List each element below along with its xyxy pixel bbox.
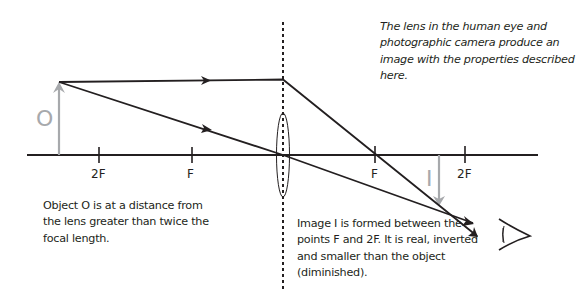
label-2f-right: 2F (457, 167, 472, 181)
caption-object: Object O is at a distance from the lens … (43, 198, 218, 247)
label-2f-left: 2F (91, 167, 106, 181)
label-f-left: F (187, 167, 194, 181)
eye-icon (499, 219, 530, 250)
label-f-right: F (371, 167, 378, 181)
caption-top: The lens in the human eye and photograph… (380, 19, 580, 84)
object-label: O (36, 106, 53, 131)
image-label: I (426, 166, 433, 191)
caption-image: Image I is formed between the points F a… (297, 216, 487, 281)
